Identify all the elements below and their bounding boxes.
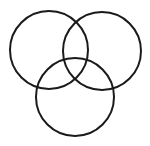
venn-diagram [0, 0, 150, 146]
circle-right [63, 12, 141, 90]
circle-bottom [36, 58, 114, 136]
